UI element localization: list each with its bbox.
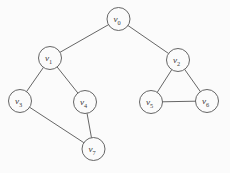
graph-node-v3: v3 [9, 90, 32, 113]
graph-node-v0: v0 [107, 8, 130, 31]
graph-node-v6: v6 [196, 90, 219, 113]
graph-edge-v0-v2 [128, 26, 169, 54]
graph-edge-v5-v6 [163, 101, 196, 102]
graph-edge-v2-v6 [185, 69, 201, 91]
graph-edge-v1-v3 [27, 67, 44, 91]
graph-figure: v0v1v2v3v4v5v6v7 [0, 0, 230, 173]
graph-node-v1: v1 [39, 47, 62, 70]
node-layer: v0v1v2v3v4v5v6v7 [9, 8, 219, 161]
graph-canvas: v0v1v2v3v4v5v6v7 [0, 0, 230, 173]
graph-edge-v1-v4 [57, 67, 78, 93]
graph-edge-v3-v7 [30, 107, 84, 142]
graph-edge-v4-v7 [87, 113, 91, 137]
graph-edge-v2-v5 [157, 70, 172, 93]
graph-node-v4: v4 [74, 91, 97, 114]
graph-node-v7: v7 [82, 138, 105, 161]
graph-edge-v0-v1 [60, 25, 109, 53]
graph-node-v5: v5 [140, 91, 163, 114]
graph-node-v2: v2 [167, 49, 190, 72]
edge-layer [27, 25, 201, 143]
